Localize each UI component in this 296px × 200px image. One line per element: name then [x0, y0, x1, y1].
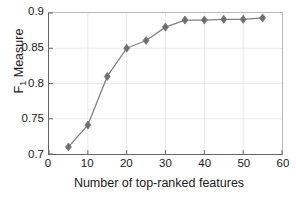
y-axis-title-rest: Measure	[12, 29, 26, 81]
x-tick-label: 10	[81, 158, 94, 170]
data-point-marker	[143, 36, 149, 44]
f1-measure-line-chart: 0.70.750.80.850.9 0102030405060 Number o…	[0, 0, 296, 200]
y-tick-label: 0.9	[28, 6, 44, 18]
data-point-marker	[201, 16, 207, 24]
data-point-marker	[260, 14, 266, 22]
y-axis-title-subscript: 1	[18, 81, 28, 86]
data-point-marker	[163, 23, 169, 31]
y-tick-label: 0.7	[28, 149, 44, 161]
x-tick-label: 60	[277, 158, 290, 170]
y-axis-title: F1 Measure	[12, 0, 26, 136]
x-tick-label: 30	[159, 158, 172, 170]
x-axis-title-text: Number of top-ranked features	[52, 176, 244, 190]
y-tick-label: 0.8	[28, 78, 44, 90]
data-point-marker	[221, 15, 227, 23]
x-axis-title: Number of top-ranked features	[0, 176, 296, 190]
y-axis-title-base: F	[12, 86, 26, 94]
series-line	[68, 18, 262, 147]
x-tick-label: 50	[237, 158, 250, 170]
data-point-marker	[240, 15, 246, 23]
plot-area	[48, 12, 283, 155]
data-point-marker	[182, 16, 188, 24]
x-tick-label: 0	[45, 158, 51, 170]
x-tick-label: 40	[198, 158, 211, 170]
x-tick-label: 20	[120, 158, 133, 170]
data-series-layer	[49, 13, 282, 154]
